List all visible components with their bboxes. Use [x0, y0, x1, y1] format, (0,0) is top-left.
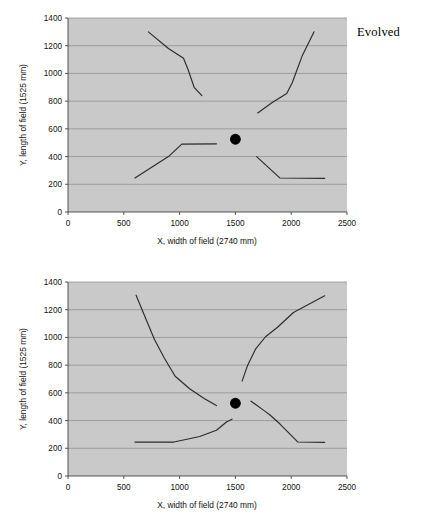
- x-tick-label: 1500: [226, 219, 245, 228]
- plot-area-evolved: [68, 18, 347, 212]
- y-tick-label: 0: [57, 472, 62, 481]
- y-axis-title: Y, length of field (1525 mm): [18, 328, 28, 430]
- x-tick-label: 500: [117, 219, 131, 228]
- y-tick-label: 1200: [44, 306, 63, 315]
- y-tick-label: 1000: [44, 69, 63, 78]
- y-tick-labels: 0200400600800100012001400: [44, 14, 63, 217]
- y-tick-label: 0: [57, 208, 62, 217]
- y-tick-label: 1400: [44, 14, 63, 23]
- y-tick-label: 800: [48, 97, 62, 106]
- x-tick-label: 1000: [170, 483, 189, 492]
- y-tick-label: 600: [48, 125, 62, 134]
- x-tick-label: 0: [66, 483, 71, 492]
- y-tick-label: 200: [48, 444, 62, 453]
- x-axis-title: X, width of field (2740 mm): [157, 236, 257, 246]
- x-tick-label: 2000: [282, 219, 301, 228]
- x-tick-labels: 05001000150020002500: [66, 219, 357, 228]
- y-axis-title: Y, length of field (1525 mm): [18, 64, 28, 166]
- x-tick-label: 0: [66, 219, 71, 228]
- plot-area-handcoded: [68, 282, 347, 476]
- chart-svg-handcoded: 0200400600800100012001400 05001000150020…: [0, 264, 446, 527]
- x-tick-label: 2500: [338, 483, 357, 492]
- x-axis-title: X, width of field (2740 mm): [157, 500, 257, 510]
- x-tick-label: 2000: [282, 483, 301, 492]
- y-tick-label: 1400: [44, 278, 63, 287]
- marker-robot-start-position: [230, 134, 241, 145]
- x-tick-label: 500: [117, 483, 131, 492]
- y-tick-label: 400: [48, 417, 62, 426]
- marker-group: [230, 134, 241, 145]
- panel-label-evolved: Evolved: [357, 25, 400, 40]
- x-tick-label: 1000: [170, 219, 189, 228]
- y-tick-label: 1000: [44, 333, 63, 342]
- plot-background: [68, 282, 347, 476]
- x-tick-labels: 05001000150020002500: [66, 483, 357, 492]
- figure-container: 0200400600800100012001400 05001000150020…: [0, 0, 446, 527]
- y-tick-label: 1200: [44, 42, 63, 51]
- x-tick-label: 1500: [226, 483, 245, 492]
- chart-panel-handcoded: 0200400600800100012001400 05001000150020…: [0, 264, 446, 527]
- x-tick-label: 2500: [338, 219, 357, 228]
- y-tick-label: 600: [48, 389, 62, 398]
- y-tick-labels: 0200400600800100012001400: [44, 278, 63, 481]
- marker-group: [230, 398, 241, 409]
- y-tick-label: 400: [48, 153, 62, 162]
- y-tick-label: 200: [48, 180, 62, 189]
- chart-panel-evolved: 0200400600800100012001400 05001000150020…: [0, 0, 446, 263]
- y-tick-label: 800: [48, 361, 62, 370]
- plot-background: [68, 18, 347, 212]
- marker-robot-start-position: [230, 398, 241, 409]
